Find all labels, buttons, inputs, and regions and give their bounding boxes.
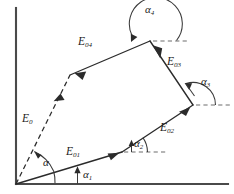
angle-label-alpha3-subscript: 3	[207, 81, 210, 88]
angle-alpha4-arc	[129, 0, 182, 40]
angle-label-alpha3-symbol: α	[201, 75, 207, 87]
angle-label-alpha1: α1	[83, 169, 92, 180]
angle-label-alpha-symbol: α	[43, 156, 49, 168]
vector-label-E02: E02	[160, 122, 174, 134]
vector-label-E03-symbol: E	[167, 55, 174, 67]
vector-label-E0: E0	[22, 113, 32, 125]
angle-label-alpha4: α4	[145, 4, 154, 15]
angle-alpha4-arrowhead	[131, 34, 138, 42]
vector-E01-arrowhead	[108, 153, 120, 161]
angle-alpha1-arrowhead	[74, 166, 80, 173]
vector-label-E01: E01	[66, 146, 80, 158]
vector-label-E01-subscript: 01	[73, 151, 80, 159]
angle-label-alpha1-subscript: 1	[89, 174, 92, 181]
angle-alpha4-group	[129, 0, 182, 42]
angle-label-alpha3: α3	[201, 76, 210, 87]
vector-label-E01-symbol: E	[66, 145, 73, 157]
vector-label-E04-symbol: E	[78, 35, 85, 47]
angle-label-alpha: α	[43, 157, 49, 168]
vector-label-E0-subscript: 0	[29, 118, 32, 126]
vector-label-E02-subscript: 02	[167, 127, 174, 135]
angle-label-alpha2-subscript: 2	[140, 143, 143, 150]
angle-label-alpha1-symbol: α	[83, 168, 89, 180]
angle-label-alpha4-symbol: α	[145, 3, 151, 15]
vector-label-E03-subscript: 03	[174, 61, 181, 69]
angle-alpha2-arc	[143, 138, 148, 152]
vector-E0-arrowhead	[54, 94, 65, 102]
vector-label-E0-symbol: E	[22, 112, 29, 124]
angle-label-alpha2-symbol: α	[134, 137, 140, 149]
vector-E03-group	[150, 41, 193, 105]
vector-label-E02-symbol: E	[160, 121, 167, 133]
angle-label-alpha2: α2	[134, 138, 143, 149]
vector-label-E04: E04	[78, 36, 92, 48]
vector-polygon-figure: E04 E03 E02 E01 E0 α α1 α2 α3 α4	[0, 0, 234, 194]
angle-label-alpha4-subscript: 4	[151, 9, 154, 16]
vector-E02-arrowhead	[179, 107, 190, 116]
figure-canvas	[0, 0, 234, 194]
vector-label-E04-subscript: 04	[85, 41, 92, 49]
angle-alpha-arrowhead	[34, 152, 41, 159]
vector-label-E03: E03	[167, 56, 181, 68]
